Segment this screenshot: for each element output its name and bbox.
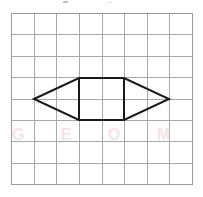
crop-artifact-mark (108, 2, 112, 3)
grid-figure-canvas (0, 0, 203, 197)
canvas-background (0, 0, 203, 197)
crop-artifact-mark (63, 1, 68, 3)
